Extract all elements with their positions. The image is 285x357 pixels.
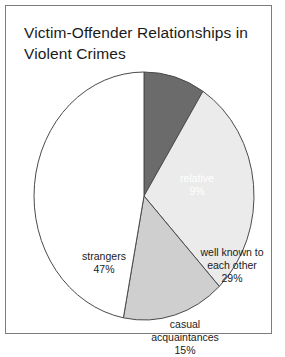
pie-slice-label-casual-acquaintances: casual acquaintances 15% bbox=[136, 318, 234, 357]
pie-slice bbox=[34, 72, 144, 318]
pie-slice-label-well-known-to-each-other: well known to each other 29% bbox=[184, 246, 280, 285]
pie-chart: relative 9% well known to each other 29%… bbox=[32, 70, 256, 322]
pie-slice-label-relative: relative 9% bbox=[164, 172, 230, 198]
chart-title: Victim-Offender Relationships in Violent… bbox=[24, 22, 266, 64]
figure-frame: Victim-Offender Relationships in Violent… bbox=[5, 5, 272, 334]
pie-slice-label-strangers: strangers 47% bbox=[64, 250, 144, 276]
